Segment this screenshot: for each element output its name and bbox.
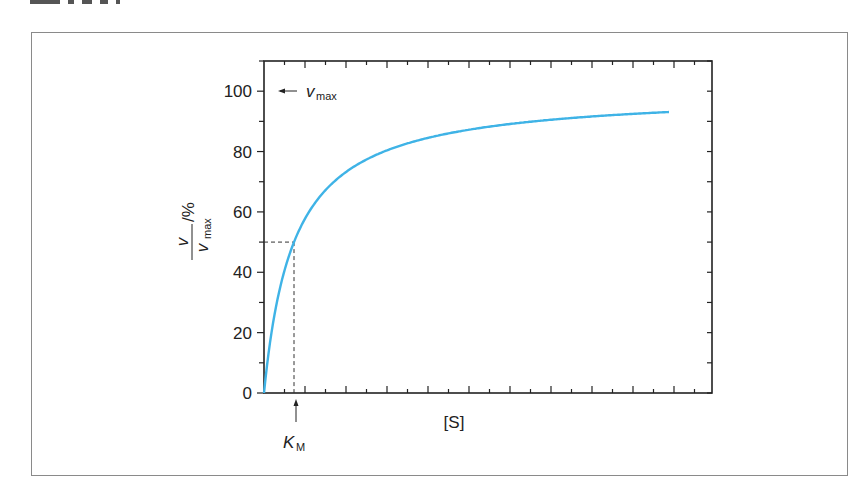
plot-box: [264, 61, 712, 393]
vmax-label-main: v: [306, 82, 316, 101]
arrow-up-icon: [294, 399, 299, 406]
michaelis-menten-chart: 020406080100 v max K M [S] v v max /%: [0, 0, 865, 504]
y-axis-denominator-sub: max: [201, 218, 213, 239]
y-axis-unit: /%: [179, 202, 198, 222]
y-axis-denominator: v: [193, 242, 212, 252]
y-axis-numerator: v: [173, 236, 192, 246]
y-tick-label: 40: [233, 263, 252, 282]
km-guides: [264, 242, 294, 393]
km-annotation: K M: [283, 399, 305, 453]
y-tick-label: 80: [233, 143, 252, 162]
x-axis-title: [S]: [444, 413, 465, 432]
y-axis-title: v v max /%: [173, 202, 213, 260]
plot-axes: [257, 61, 712, 393]
arrow-left-icon: [278, 89, 285, 94]
vmax-annotation: v max: [278, 82, 337, 102]
km-label-sub: M: [296, 441, 305, 453]
km-label-main: K: [283, 433, 295, 452]
y-tick-labels: 020406080100: [224, 82, 252, 403]
y-tick-label: 0: [243, 384, 252, 403]
y-tick-label: 60: [233, 203, 252, 222]
y-tick-label: 100: [224, 82, 252, 101]
saturation-curve: [264, 112, 669, 393]
y-tick-label: 20: [233, 324, 252, 343]
vmax-label-sub: max: [316, 90, 337, 102]
